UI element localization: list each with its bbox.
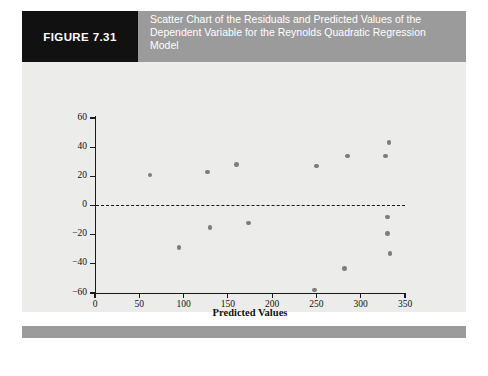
- figure-number-label: FIGURE 7.31: [43, 31, 116, 43]
- chart-panel: [22, 62, 466, 312]
- scatter-point: [388, 251, 393, 256]
- scatter-point: [205, 170, 210, 175]
- scatter-point: [385, 215, 390, 220]
- x-tick-mark: [404, 293, 405, 298]
- x-tick-mark: [272, 293, 273, 298]
- y-tick-mark: [90, 147, 95, 148]
- y-tick-label: −40: [61, 257, 87, 267]
- x-tick-mark: [227, 293, 228, 298]
- y-tick-mark: [90, 176, 95, 177]
- figure-caption: Scatter Chart of the Residuals and Predi…: [150, 13, 455, 53]
- scatter-point: [342, 266, 347, 271]
- x-tick-mark: [94, 293, 95, 298]
- y-tick-mark: [90, 205, 95, 206]
- scatter-point: [385, 231, 390, 236]
- figure-number-badge: FIGURE 7.31: [22, 11, 138, 62]
- scatter-point: [314, 164, 319, 169]
- x-tick-mark: [139, 293, 140, 298]
- y-tick-label: 0: [61, 199, 87, 209]
- x-tick-mark: [316, 293, 317, 298]
- y-tick-mark: [90, 263, 95, 264]
- scatter-point: [246, 221, 251, 226]
- y-tick-label: 40: [61, 141, 87, 151]
- figure-container: FIGURE 7.31 Scatter Chart of the Residua…: [0, 0, 488, 376]
- y-tick-label: 60: [61, 112, 87, 122]
- x-tick-mark: [183, 293, 184, 298]
- y-tick-label: −20: [61, 228, 87, 238]
- x-axis-title: Predicted Values: [95, 307, 405, 318]
- scatter-point: [345, 154, 350, 159]
- footer-band: [22, 326, 466, 338]
- x-tick-mark: [360, 293, 361, 298]
- y-tick-mark: [90, 234, 95, 235]
- scatter-point: [208, 225, 213, 230]
- y-tick-label: 20: [61, 170, 87, 180]
- y-tick-label: −60: [61, 287, 87, 297]
- scatter-point: [383, 154, 388, 159]
- zero-reference-line: [96, 205, 405, 206]
- scatter-point: [234, 162, 239, 167]
- y-tick-mark: [90, 117, 95, 118]
